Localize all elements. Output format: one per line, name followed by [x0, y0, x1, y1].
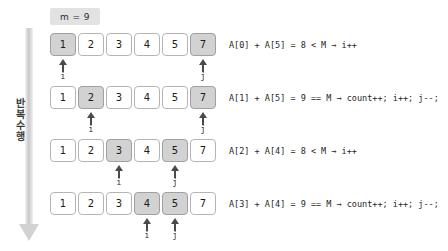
array-row: 123457ij: [50, 192, 221, 217]
array-cell: 4: [134, 139, 160, 162]
up-arrow-icon: [198, 112, 208, 125]
array-cell: 3: [106, 139, 132, 162]
array-cell: 7: [190, 139, 216, 162]
array-cells: 123457: [50, 139, 221, 164]
array-cell: 3: [106, 33, 132, 56]
array-cell: 7: [190, 33, 216, 56]
pointer-label: j: [170, 178, 180, 187]
pointer-j: j: [198, 112, 208, 134]
step-expression: A[0] + A[5] = 8 < M → i++: [229, 40, 357, 50]
arrow-stem: [174, 221, 176, 231]
array-cell: 5: [162, 33, 188, 56]
array-cells: 123457: [50, 86, 221, 111]
array-cell: 5: [162, 86, 188, 109]
pointer-label: i: [142, 231, 152, 240]
up-arrow-icon: [170, 165, 180, 178]
array-cell: 5: [162, 139, 188, 162]
step-expression: A[3] + A[4] = 9 == M → count++; i++; j--…: [229, 199, 439, 209]
array-cell: 1: [50, 139, 76, 162]
array-cell: 3: [106, 86, 132, 109]
array-cells: 123457: [50, 33, 221, 58]
array-cell: 7: [190, 86, 216, 109]
array-cell: 3: [106, 192, 132, 215]
arrow-stem: [174, 168, 176, 178]
array-cell: 2: [78, 33, 104, 56]
array-cell: 5: [162, 192, 188, 215]
array-cell: 4: [134, 33, 160, 56]
arrow-stem: [202, 62, 204, 72]
pointer-label: i: [58, 72, 68, 81]
up-arrow-icon: [142, 218, 152, 231]
array-cell: 7: [190, 192, 216, 215]
array-cell: 1: [50, 33, 76, 56]
down-arrow-icon: [19, 224, 39, 241]
pointer-label: j: [170, 231, 180, 240]
array-row: 123457ij: [50, 86, 221, 111]
m-value-label: m = 9: [60, 12, 90, 22]
array-row: 123457ij: [50, 139, 221, 164]
step-expression: A[2] + A[4] = 8 < M → i++: [229, 146, 357, 156]
loop-label: 반복 수행: [13, 98, 27, 142]
arrow-stem: [118, 168, 120, 178]
array-cell: 4: [134, 86, 160, 109]
pointer-label: j: [198, 125, 208, 134]
pointer-label: i: [114, 178, 124, 187]
up-arrow-icon: [170, 218, 180, 231]
pointer-label: j: [198, 72, 208, 81]
arrow-stem: [62, 62, 64, 72]
arrow-stem: [146, 221, 148, 231]
pointer-j: j: [170, 165, 180, 187]
array-cell: 1: [50, 86, 76, 109]
pointer-i: i: [58, 59, 68, 81]
array-cell: 4: [134, 192, 160, 215]
arrow-stem: [202, 115, 204, 125]
up-arrow-icon: [198, 59, 208, 72]
array-cell: 2: [78, 86, 104, 109]
pointer-i: i: [86, 112, 96, 134]
array-cells: 123457: [50, 192, 221, 217]
arrow-stem: [90, 115, 92, 125]
up-arrow-icon: [58, 59, 68, 72]
up-arrow-icon: [86, 112, 96, 125]
array-cell: 1: [50, 192, 76, 215]
array-row: 123457ij: [50, 33, 221, 58]
step-expression: A[1] + A[5] = 9 == M → count++; i++; j--…: [229, 93, 439, 103]
array-cell: 2: [78, 139, 104, 162]
pointer-j: j: [198, 59, 208, 81]
pointer-label: i: [86, 125, 96, 134]
m-value-badge: m = 9: [50, 8, 100, 25]
pointer-j: j: [170, 218, 180, 240]
up-arrow-icon: [114, 165, 124, 178]
array-cell: 2: [78, 192, 104, 215]
pointer-i: i: [114, 165, 124, 187]
pointer-i: i: [142, 218, 152, 240]
